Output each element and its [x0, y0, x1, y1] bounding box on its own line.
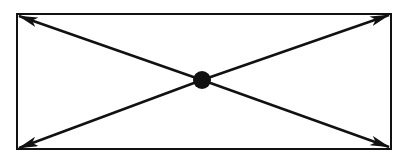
arrow-top-right [202, 15, 389, 80]
arrow-top-left [19, 16, 202, 80]
center-dot [193, 71, 211, 89]
arrow-bottom-right [202, 80, 389, 147]
diagram-canvas [0, 0, 404, 160]
arrow-bottom-left [19, 80, 202, 148]
